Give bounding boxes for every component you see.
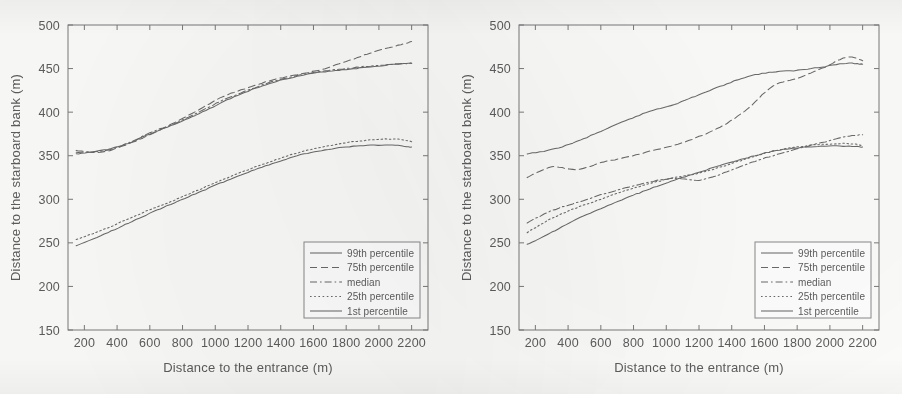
- y-tick-label: 250: [39, 236, 60, 250]
- y-tick-label: 450: [490, 62, 511, 76]
- y-tick-label: 350: [490, 149, 511, 163]
- x-axis-title: Distance to the entrance (m): [614, 360, 784, 375]
- y-tick-label: 400: [490, 106, 511, 120]
- legend-entry-label: median: [798, 277, 831, 288]
- y-tick-label: 300: [490, 193, 511, 207]
- y-tick-label: 500: [490, 19, 511, 33]
- y-tick-label: 350: [39, 149, 60, 163]
- legend-entry-label: 75th percentile: [347, 262, 414, 273]
- x-tick-label: 200: [525, 336, 546, 350]
- legend-entry-label: 1st percentile: [798, 306, 859, 317]
- x-tick-label: 1400: [266, 336, 295, 350]
- x-tick-label: 1600: [750, 336, 779, 350]
- left-panel: 2004006008001000120014001600180020002200…: [0, 0, 451, 394]
- x-tick-label: 1600: [299, 336, 328, 350]
- right-panel: 2004006008001000120014001600180020002200…: [451, 0, 902, 394]
- x-tick-label: 2000: [365, 336, 394, 350]
- y-tick-label: 200: [39, 280, 60, 294]
- legend-entry-label: 25th percentile: [798, 291, 865, 302]
- legend[interactable]: 99th percentile75th percentilemedian25th…: [755, 242, 871, 318]
- x-tick-label: 1000: [652, 336, 681, 350]
- series-line: [76, 139, 411, 240]
- x-tick-label: 1800: [332, 336, 361, 350]
- y-tick-label: 450: [39, 62, 60, 76]
- y-tick-label: 300: [39, 193, 60, 207]
- y-tick-label: 150: [39, 324, 60, 338]
- x-tick-label: 800: [623, 336, 644, 350]
- x-tick-label: 1200: [234, 336, 263, 350]
- series-line: [527, 57, 862, 178]
- legend-entry-label: 99th percentile: [798, 248, 865, 259]
- y-tick-label: 400: [39, 106, 60, 120]
- legend-entry-label: 99th percentile: [347, 248, 414, 259]
- x-tick-label: 2000: [816, 336, 845, 350]
- legend-entry-label: median: [347, 277, 380, 288]
- legend[interactable]: 99th percentile75th percentilemedian25th…: [304, 242, 420, 318]
- x-axis-title: Distance to the entrance (m): [163, 360, 333, 375]
- x-tick-label: 1800: [783, 336, 812, 350]
- x-tick-label: 1200: [685, 336, 714, 350]
- series-group: [76, 42, 411, 246]
- chart-panel-right: 2004006008001000120014001600180020002200…: [451, 0, 902, 394]
- x-tick-label: 600: [139, 336, 160, 350]
- series-line: [76, 145, 411, 246]
- y-axis-title: Distance to the starboard bank (m): [459, 74, 474, 281]
- x-tick-label: 2200: [397, 336, 426, 350]
- y-tick-label: 250: [490, 236, 511, 250]
- x-tick-label: 400: [106, 336, 127, 350]
- legend-entry-label: 75th percentile: [798, 262, 865, 273]
- legend-entry-label: 25th percentile: [347, 291, 414, 302]
- series-line: [76, 42, 411, 153]
- x-tick-label: 800: [172, 336, 193, 350]
- y-tick-label: 200: [490, 280, 511, 294]
- y-tick-label: 150: [490, 324, 511, 338]
- x-tick-label: 600: [590, 336, 611, 350]
- series-line: [527, 146, 862, 245]
- series-line: [76, 63, 411, 152]
- series-group: [527, 57, 862, 244]
- chart-panel-left: 2004006008001000120014001600180020002200…: [0, 0, 451, 394]
- y-axis-title: Distance to the starboard bank (m): [8, 74, 23, 281]
- series-line: [76, 63, 411, 154]
- figure-root: 2004006008001000120014001600180020002200…: [0, 0, 902, 394]
- x-tick-label: 200: [74, 336, 95, 350]
- y-tick-label: 500: [39, 19, 60, 33]
- x-tick-label: 1400: [717, 336, 746, 350]
- x-tick-label: 1000: [201, 336, 230, 350]
- x-tick-label: 2200: [848, 336, 877, 350]
- series-line: [527, 135, 862, 223]
- legend-entry-label: 1st percentile: [347, 306, 408, 317]
- x-tick-label: 400: [557, 336, 578, 350]
- series-line: [527, 143, 862, 233]
- series-line: [527, 63, 862, 154]
